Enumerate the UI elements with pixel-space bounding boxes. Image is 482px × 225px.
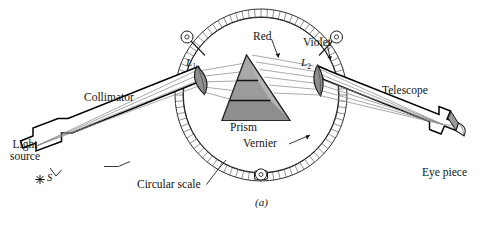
telescope-objective-lens-label: L2 <box>301 57 311 71</box>
telescope-label: Telescope <box>382 84 428 96</box>
spectrometer-drawing <box>0 0 482 225</box>
violet-ray-label: Violet <box>303 36 331 48</box>
figure-caption: (a) <box>255 197 268 209</box>
light-source-star-icon <box>35 175 44 184</box>
light-source-label-line1: Light <box>13 138 38 150</box>
light-source-label-line2: source <box>10 150 40 162</box>
light-source-label: Light source <box>10 138 40 162</box>
clamp-screw-bottom[interactable] <box>255 169 268 180</box>
circular-scale-label: Circular scale <box>137 178 201 190</box>
slit-label: S <box>47 172 52 183</box>
collimator-label: Collimator <box>84 91 134 103</box>
collimator-lens-label: L1 <box>186 57 196 71</box>
eye-piece-label: Eye piece <box>422 166 467 178</box>
prism-label: Prism <box>230 121 257 133</box>
vernier-label: Vernier <box>243 137 277 149</box>
red-ray-label: Red <box>253 30 272 42</box>
figure-canvas: Collimator Light source S L1 L2 Red Viol… <box>0 0 482 225</box>
